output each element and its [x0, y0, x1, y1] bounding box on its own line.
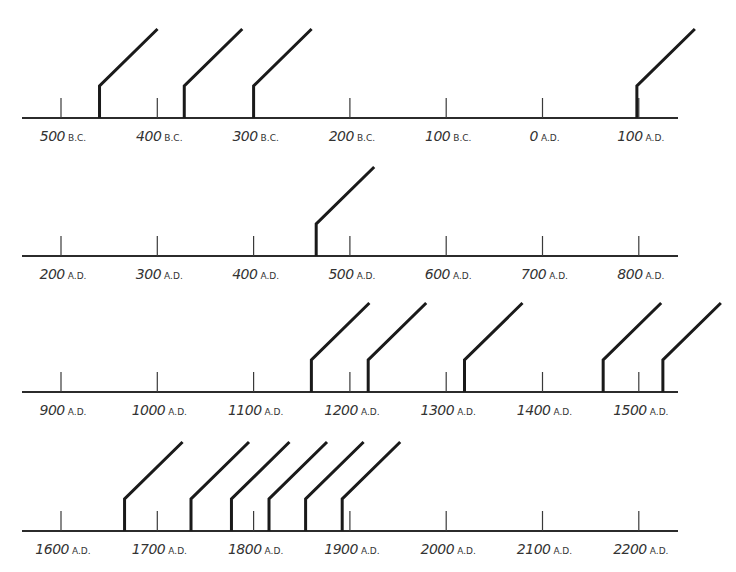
tick-label-number: 2000	[421, 541, 455, 557]
tick-label-era: A.D.	[541, 133, 560, 143]
tick-label: 2000A.D.	[421, 539, 476, 558]
tick-label-number: 200	[40, 266, 65, 282]
tick-label: 500B.C.	[40, 126, 86, 145]
tick-label-number: 1900	[324, 541, 358, 557]
tick-label: 2100A.D.	[517, 539, 572, 558]
event-flag-marker	[316, 167, 374, 256]
tick-label: 1600A.D.	[35, 539, 90, 558]
tick-label: 800A.D.	[617, 264, 664, 283]
tick-label-era: A.D.	[265, 407, 284, 417]
tick-label-era: A.D.	[168, 546, 187, 556]
tick-label-era: A.D.	[168, 407, 187, 417]
tick-label-era: A.D.	[68, 271, 87, 281]
tick-label-era: A.D.	[650, 407, 669, 417]
tick-label-number: 100	[617, 128, 642, 144]
tick-label-number: 1800	[228, 541, 262, 557]
tick-label-era: B.C.	[453, 133, 471, 143]
tick-label-era: B.C.	[164, 133, 182, 143]
timeline-row-3	[22, 303, 721, 392]
tick-label-era: A.D.	[361, 407, 380, 417]
event-flag-marker	[100, 29, 158, 118]
tick-label-era: A.D.	[453, 271, 472, 281]
tick-label-number: 0	[529, 128, 537, 144]
tick-label-number: 2200	[613, 541, 647, 557]
event-flag-marker	[184, 29, 242, 118]
tick-label: 1700A.D.	[132, 539, 187, 558]
tick-label-number: 900	[40, 402, 65, 418]
tick-label-era: A.D.	[553, 546, 572, 556]
timeline-row-1	[22, 29, 695, 118]
timeline-svg	[0, 0, 736, 572]
tick-label: 100A.D.	[617, 126, 664, 145]
tick-label-number: 500	[40, 128, 65, 144]
tick-label: 900A.D.	[40, 400, 87, 419]
tick-label-number: 1700	[132, 541, 166, 557]
tick-label: 400A.D.	[232, 264, 279, 283]
tick-label: 200A.D.	[40, 264, 87, 283]
tick-label: 600A.D.	[425, 264, 472, 283]
timeline-row-4	[22, 442, 678, 531]
event-flag-marker	[368, 303, 426, 392]
tick-label-number: 300	[232, 128, 257, 144]
tick-label-number: 400	[136, 128, 161, 144]
tick-label: 2200A.D.	[613, 539, 668, 558]
tick-label: 1900A.D.	[324, 539, 379, 558]
tick-label-number: 1100	[228, 402, 262, 418]
tick-label-number: 500	[328, 266, 353, 282]
tick-label-number: 700	[521, 266, 546, 282]
tick-label: 700A.D.	[521, 264, 568, 283]
tick-label-number: 100	[425, 128, 450, 144]
tick-label: 1100A.D.	[228, 400, 283, 419]
event-flag-marker	[125, 442, 183, 531]
tick-label-era: A.D.	[457, 407, 476, 417]
tick-label: 1000A.D.	[132, 400, 187, 419]
tick-label-number: 1200	[324, 402, 358, 418]
tick-label-era: A.D.	[68, 407, 87, 417]
tick-label-era: B.C.	[261, 133, 279, 143]
tick-label: 0A.D.	[529, 126, 559, 145]
tick-label-era: A.D.	[457, 546, 476, 556]
event-flag-marker	[464, 303, 522, 392]
tick-label-number: 1500	[613, 402, 647, 418]
tick-label: 400B.C.	[136, 126, 182, 145]
tick-label: 200B.C.	[329, 126, 375, 145]
tick-label-era: A.D.	[265, 546, 284, 556]
tick-label-number: 1400	[517, 402, 551, 418]
tick-label-era: B.C.	[68, 133, 86, 143]
tick-label: 500A.D.	[328, 264, 375, 283]
tick-label-number: 200	[329, 128, 354, 144]
event-flag-marker	[637, 29, 695, 118]
tick-label-era: A.D.	[646, 271, 665, 281]
tick-label-number: 1000	[132, 402, 166, 418]
tick-label-number: 800	[617, 266, 642, 282]
tick-label-number: 1600	[35, 541, 69, 557]
tick-label-number: 400	[232, 266, 257, 282]
tick-label: 1200A.D.	[324, 400, 379, 419]
tick-label-era: A.D.	[72, 546, 91, 556]
tick-label-era: A.D.	[164, 271, 183, 281]
tick-label-era: A.D.	[553, 407, 572, 417]
tick-label-era: A.D.	[646, 133, 665, 143]
tick-label: 1400A.D.	[517, 400, 572, 419]
event-flag-marker	[663, 303, 721, 392]
tick-label-number: 1300	[421, 402, 455, 418]
tick-label: 1300A.D.	[421, 400, 476, 419]
tick-label: 300A.D.	[136, 264, 183, 283]
tick-label: 1500A.D.	[613, 400, 668, 419]
tick-label: 1800A.D.	[228, 539, 283, 558]
tick-label-number: 600	[425, 266, 450, 282]
tick-label-era: A.D.	[357, 271, 376, 281]
tick-label-era: B.C.	[357, 133, 375, 143]
tick-label: 300B.C.	[232, 126, 278, 145]
tick-label-era: A.D.	[549, 271, 568, 281]
timeline-diagram: 500B.C.400B.C.300B.C.200B.C.100B.C.0A.D.…	[0, 0, 736, 572]
tick-label-number: 2100	[517, 541, 551, 557]
event-flag-marker	[254, 29, 312, 118]
tick-label-era: A.D.	[260, 271, 279, 281]
tick-label-era: A.D.	[650, 546, 669, 556]
event-flag-marker	[603, 303, 661, 392]
event-flag-marker	[191, 442, 249, 531]
timeline-row-2	[22, 167, 678, 256]
tick-label: 100B.C.	[425, 126, 471, 145]
event-flag-marker	[311, 303, 369, 392]
